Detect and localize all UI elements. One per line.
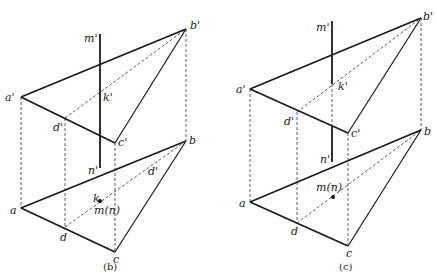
- label-n-prime: n': [88, 164, 98, 177]
- label-b: b: [189, 134, 196, 147]
- edge-c-b-top: [348, 130, 421, 246]
- label-c: c: [346, 247, 352, 260]
- edge-c-b-front: [115, 29, 186, 143]
- edge-c-b-front: [348, 18, 421, 133]
- aux-line-d-b-top: [65, 141, 186, 227]
- figure-c: b' a' c' d' m' k' n' b a c d m(n) (c): [236, 10, 433, 272]
- label-c-prime: c': [351, 127, 360, 140]
- label-a-prime: a': [236, 83, 246, 96]
- label-mn: m(n): [316, 181, 342, 194]
- label-a: a: [239, 197, 246, 210]
- edge-a-c-front: [250, 89, 348, 133]
- edge-a-b-top: [21, 141, 186, 208]
- label-k-prime: k': [338, 80, 348, 93]
- label-d-prime: d': [284, 115, 294, 128]
- label-d: d: [291, 225, 298, 238]
- label-d-prime: d': [53, 121, 63, 134]
- edge-a-b-front: [250, 18, 421, 89]
- aux-line-d-b-top: [297, 130, 421, 223]
- point-mn: [331, 195, 335, 199]
- edge-c-b-top: [115, 141, 186, 252]
- label-n-prime: n': [320, 153, 330, 166]
- edge-a-c-top: [250, 202, 348, 246]
- label-c-prime: c': [118, 136, 127, 149]
- label-a: a: [10, 204, 17, 217]
- projection-diagram: b' a' c' d' m' k' n' b a c d k m(n) d' (…: [0, 0, 437, 280]
- label-d: d: [60, 231, 67, 244]
- label-m-prime: m': [84, 32, 97, 45]
- label-m-prime: m': [316, 21, 329, 34]
- label-b: b: [424, 125, 431, 138]
- label-mn: m(n): [94, 204, 120, 217]
- label-a-prime: a': [5, 91, 15, 104]
- edge-a-b-front: [21, 29, 186, 97]
- label-b-prime: b': [190, 19, 200, 32]
- label-d-prime-plan: d': [148, 165, 158, 178]
- diagram-svg: b' a' c' d' m' k' n' b a c d k m(n) d' (…: [0, 0, 437, 280]
- caption-b: (b): [103, 261, 117, 272]
- label-k-prime: k': [103, 91, 113, 104]
- caption-c: (c): [339, 261, 353, 272]
- label-b-prime: b': [423, 10, 433, 23]
- figure-b: b' a' c' d' m' k' n' b a c d k m(n) d' (…: [5, 19, 200, 272]
